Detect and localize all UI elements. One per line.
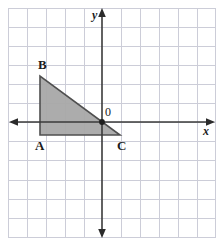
y-axis-label: y <box>92 9 97 21</box>
point-label-a: A <box>35 139 44 152</box>
origin-point-marker <box>99 119 105 125</box>
point-label-c: C <box>117 139 126 152</box>
x-axis-label: x <box>203 125 209 137</box>
plot-svg <box>0 0 222 246</box>
origin-label: 0 <box>105 106 111 118</box>
coordinate-plane-figure: B A C 0 y x <box>0 0 222 246</box>
point-label-b: B <box>38 58 47 71</box>
